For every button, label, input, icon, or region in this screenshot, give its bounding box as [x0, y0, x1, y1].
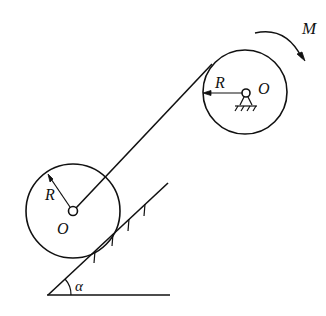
moment-arrowhead	[297, 52, 305, 61]
lower-center-label: O	[57, 220, 69, 237]
upper-radius-arrowhead	[203, 91, 211, 96]
upper-center-label: O	[258, 80, 270, 97]
mechanics-diagram: M R O R O α	[0, 0, 326, 316]
moment-label: M	[301, 19, 317, 38]
angle-arc	[65, 279, 71, 295]
upper-radius-label: R	[214, 74, 225, 91]
upper-pulley	[203, 50, 287, 134]
angle-label: α	[75, 278, 84, 294]
pin-support	[235, 97, 257, 111]
lower-wheel	[26, 164, 120, 258]
rope-line	[76, 64, 212, 208]
diagram-svg: M R O R O α	[0, 0, 326, 316]
upper-center-pin	[242, 89, 250, 97]
incline-line	[48, 183, 168, 295]
lower-radius-label: R	[44, 186, 55, 203]
